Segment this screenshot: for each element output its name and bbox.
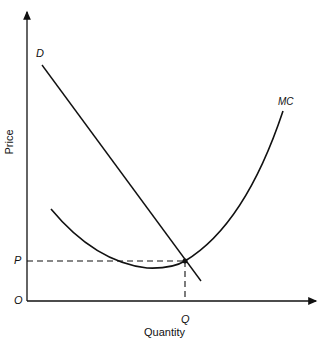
mc-curve <box>51 111 283 268</box>
equilibrium-point <box>183 259 188 264</box>
y-axis-label: Price <box>3 129 15 154</box>
quantity-tick-label: Q <box>181 313 190 325</box>
price-tick-label: P <box>14 254 21 266</box>
demand-curve <box>42 65 201 281</box>
diagram-canvas <box>0 0 326 347</box>
mc-label: MC <box>278 96 294 107</box>
x-axis-label: Quantity <box>144 326 185 338</box>
origin-label: O <box>14 294 23 306</box>
demand-label: D <box>36 47 44 59</box>
